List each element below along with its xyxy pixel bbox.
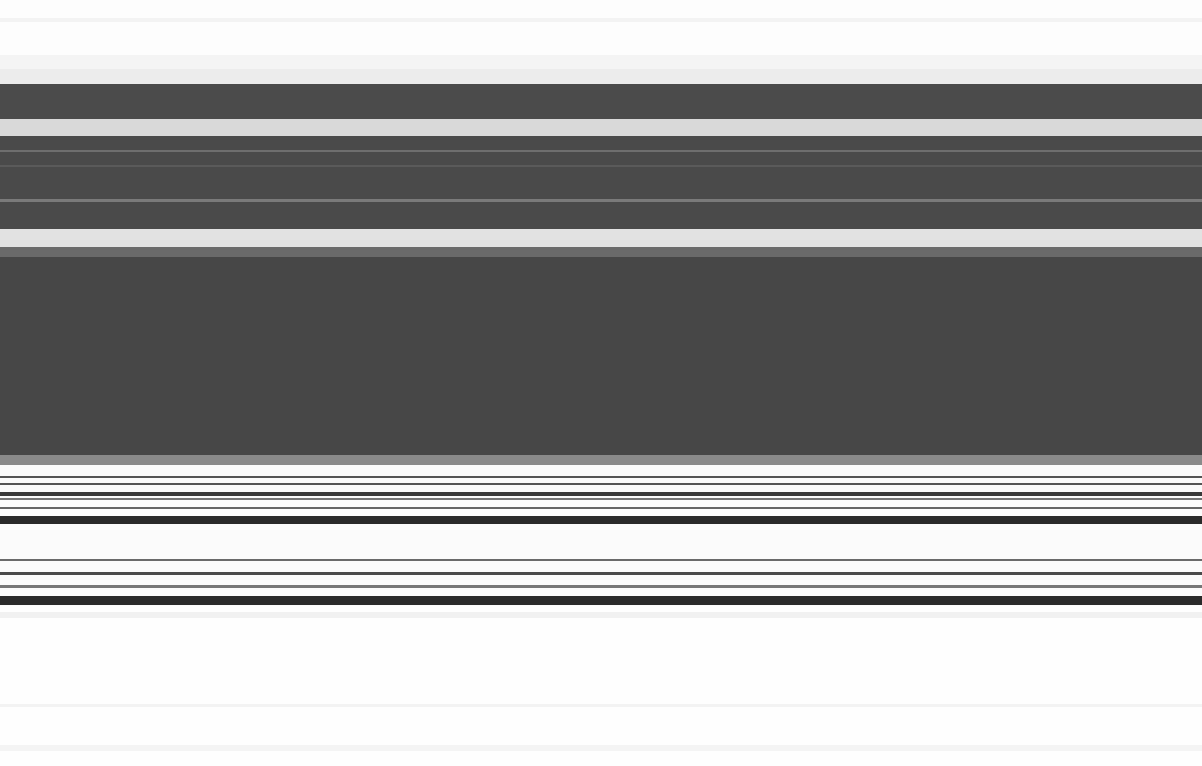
streak-band [0, 606, 1202, 766]
unreadable-screenshot-canvas: Screenshot content is not legible: the i… [0, 0, 1202, 766]
streak-band [0, 704, 1202, 707]
streak-band [0, 559, 1202, 561]
streak-band [0, 199, 1202, 202]
streak-band [0, 516, 1202, 524]
streak-band [0, 69, 1202, 84]
streak-band [0, 507, 1202, 509]
streak-band [0, 18, 1202, 22]
streak-band [0, 596, 1202, 605]
streak-band [0, 476, 1202, 478]
streak-band [0, 585, 1202, 588]
streak-band [0, 84, 1202, 119]
streak-band [0, 492, 1202, 496]
streak-band [0, 498, 1202, 500]
streak-band [0, 55, 1202, 69]
streak-band [0, 247, 1202, 257]
streak-band [0, 119, 1202, 136]
streak-band [0, 483, 1202, 485]
streak-band [0, 0, 1202, 55]
streak-band [0, 229, 1202, 247]
streak-band [0, 257, 1202, 455]
streak-band [0, 455, 1202, 465]
streak-band [0, 165, 1202, 167]
streak-band [0, 150, 1202, 152]
streak-band [0, 745, 1202, 751]
streak-band [0, 612, 1202, 618]
streak-band [0, 572, 1202, 575]
